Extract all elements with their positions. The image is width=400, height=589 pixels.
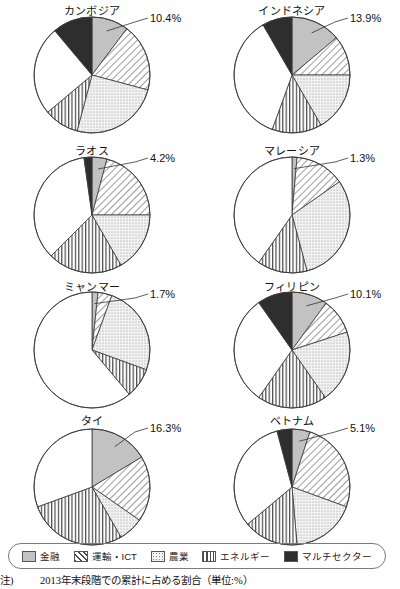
pie-slice-その他 bbox=[234, 25, 292, 130]
pie-outline bbox=[234, 17, 350, 133]
pie-chart-8 bbox=[0, 0, 400, 589]
pie-slice-エネルギー bbox=[259, 350, 326, 408]
legend: 金融 運輸・ICT 農業 エネルギー マルチセクター bbox=[8, 543, 386, 569]
pie-slice-金融 bbox=[292, 17, 336, 75]
note-text: 2013年末段階での累計に占める割合（単位:%） bbox=[40, 572, 253, 587]
pie-slice-マルチセクター bbox=[277, 429, 292, 487]
pie-outline bbox=[234, 292, 350, 408]
pie-slice-その他 bbox=[234, 302, 292, 397]
legend-swatch-energy bbox=[202, 551, 216, 562]
pie-slices bbox=[34, 17, 150, 133]
pie-slice-運輸・ICT bbox=[92, 159, 150, 215]
pie-chart-6 bbox=[0, 0, 400, 589]
pie-chart-grid: カンボジア10.4%インドネシア13.9%ラオス4.2%マレーシア1.3%ミャン… bbox=[0, 0, 400, 589]
pie-title-4: マレーシア bbox=[0, 142, 400, 158]
pie-slice-金融 bbox=[292, 429, 310, 487]
pie-slice-金融 bbox=[92, 17, 127, 75]
pie-outline bbox=[234, 429, 350, 545]
pie-outline bbox=[234, 157, 350, 273]
pie-outline bbox=[34, 292, 150, 408]
pie-slice-エネルギー bbox=[48, 75, 92, 131]
pie-slice-農業 bbox=[292, 75, 350, 125]
pie-slice-その他 bbox=[34, 429, 92, 507]
pie-value-label-2: 13.9% bbox=[350, 12, 381, 24]
pie-slice-エネルギー bbox=[248, 487, 297, 545]
pie-slice-農業 bbox=[292, 332, 350, 397]
leader-line bbox=[94, 294, 148, 304]
legend-label-finance: 金融 bbox=[40, 549, 60, 563]
pie-slice-マルチセクター bbox=[263, 17, 292, 75]
pie-slice-農業 bbox=[92, 295, 150, 369]
leader-line bbox=[312, 18, 348, 33]
legend-item-0: 金融 bbox=[22, 549, 60, 563]
pie-outline bbox=[34, 157, 150, 273]
legend-item-3: エネルギー bbox=[202, 549, 270, 563]
pie-slice-運輸・ICT bbox=[292, 432, 350, 507]
pie-slice-金融 bbox=[92, 157, 107, 215]
legend-label-energy: エネルギー bbox=[220, 549, 270, 563]
pie-slices bbox=[234, 292, 350, 408]
pie-slice-金融 bbox=[92, 429, 142, 487]
pie-slice-農業 bbox=[92, 215, 150, 265]
pie-slice-運輸・ICT bbox=[292, 157, 340, 215]
pie-slice-金融 bbox=[92, 292, 98, 350]
pie-slice-運輸・ICT bbox=[292, 38, 350, 75]
legend-swatch-agriculture bbox=[151, 551, 165, 562]
legend-swatch-multisector bbox=[284, 551, 298, 562]
pie-slice-金融 bbox=[292, 292, 326, 350]
legend-swatch-transport-ict bbox=[74, 551, 88, 562]
pie-slice-運輸・ICT bbox=[92, 457, 150, 520]
pie-chart-2 bbox=[0, 0, 400, 589]
pie-value-label-6: 10.1% bbox=[350, 288, 381, 300]
pie-chart-4 bbox=[0, 0, 400, 589]
pie-slices bbox=[234, 17, 350, 133]
pie-slice-金融 bbox=[292, 157, 297, 215]
pie-slice-その他 bbox=[234, 431, 292, 524]
pie-slices bbox=[234, 429, 350, 545]
pie-chart-5 bbox=[0, 0, 400, 589]
pie-slice-その他 bbox=[34, 292, 129, 408]
pie-title-6: フィリピン bbox=[0, 278, 400, 294]
pie-outline bbox=[34, 429, 150, 545]
pie-slice-エネルギー bbox=[37, 487, 121, 545]
pie-slice-マルチセクター bbox=[84, 157, 92, 215]
pie-slice-マルチセクター bbox=[55, 17, 92, 75]
pie-slice-マルチセクター bbox=[259, 292, 292, 350]
legend-label-multisector: マルチセクター bbox=[302, 549, 372, 563]
legend-item-1: 運輸・ICT bbox=[74, 549, 137, 563]
leader-line bbox=[115, 428, 148, 447]
pie-slice-運輸・ICT bbox=[92, 29, 150, 90]
leader-line bbox=[306, 294, 348, 306]
pie-slice-運輸・ICT bbox=[92, 292, 112, 350]
pie-slice-エネルギー bbox=[259, 215, 307, 273]
pie-title-2: インドネシア bbox=[0, 2, 400, 18]
pie-outline bbox=[34, 17, 150, 133]
pie-chart-1 bbox=[0, 0, 400, 589]
leader-line bbox=[294, 158, 348, 169]
legend-item-2: 農業 bbox=[151, 549, 189, 563]
pie-chart-3 bbox=[0, 0, 400, 589]
leader-line bbox=[107, 18, 148, 31]
pie-title-8: ベトナム bbox=[0, 412, 400, 428]
pie-chart-7 bbox=[0, 0, 400, 589]
leader-line bbox=[299, 428, 348, 441]
leader-line bbox=[98, 158, 148, 169]
pie-slice-エネルギー bbox=[92, 350, 147, 394]
pie-slice-農業 bbox=[292, 487, 347, 545]
pie-slice-エネルギー bbox=[51, 215, 121, 273]
pie-slice-運輸・ICT bbox=[292, 303, 347, 350]
legend-label-agriculture: 農業 bbox=[169, 549, 189, 563]
pie-slices bbox=[34, 292, 150, 408]
pie-slice-農業 bbox=[292, 182, 350, 271]
pie-value-label-8: 5.1% bbox=[350, 422, 375, 434]
legend-swatch-finance bbox=[22, 551, 36, 562]
pie-slices bbox=[34, 157, 150, 273]
note-marker: 注) bbox=[0, 572, 14, 587]
pie-value-label-4: 1.3% bbox=[350, 152, 375, 164]
pie-slices bbox=[234, 157, 350, 273]
pie-slice-農業 bbox=[92, 487, 140, 537]
legend-label-transport-ict: 運輸・ICT bbox=[92, 549, 137, 563]
pie-slice-農業 bbox=[77, 75, 148, 133]
pie-slices bbox=[34, 429, 150, 545]
pie-slice-エネルギー bbox=[272, 75, 321, 133]
